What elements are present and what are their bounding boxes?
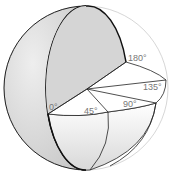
label-45-degrees: 45° [84, 107, 98, 116]
label-0-degrees: 0° [49, 103, 58, 112]
label-135-degrees: 135° [143, 83, 162, 92]
sphere-diagram: 180° 135° 90° 45° 0° [0, 0, 172, 176]
label-90-degrees: 90° [123, 100, 137, 109]
label-180-degrees: 180° [128, 54, 147, 63]
